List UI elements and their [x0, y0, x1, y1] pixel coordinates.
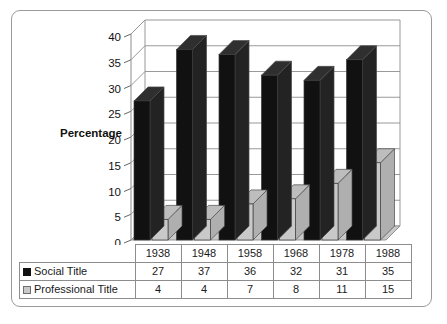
gray-swatch-icon — [23, 286, 31, 294]
table-value-cell: 35 — [365, 263, 411, 281]
bar-social-title-1938 — [134, 87, 164, 240]
legend-row-social-title: Social Title — [20, 263, 136, 281]
y-tick-label: 25 — [108, 108, 121, 120]
y-tick-label: 30 — [108, 83, 121, 95]
table-value-cell: 15 — [365, 281, 411, 299]
table-value-cell: 37 — [181, 263, 227, 281]
legend-row-professional-title: Professional Title — [20, 281, 136, 299]
legend-label: Social Title — [34, 265, 87, 277]
y-tick-label: 20 — [108, 134, 121, 146]
table-header-cell: 1988 — [365, 245, 411, 263]
table-value-cell: 4 — [135, 281, 181, 299]
table-value-cell: 4 — [181, 281, 227, 299]
table-value-cell: 36 — [227, 263, 273, 281]
y-tick-label: 35 — [108, 57, 121, 69]
table-value-cell: 31 — [319, 263, 365, 281]
table-row: Social Title273736323135 — [20, 263, 412, 281]
table-header-cell: 1958 — [227, 245, 273, 263]
chart-screenshot: Percentage 4035302520151050 193819481958… — [0, 0, 447, 324]
table-header-cell: 1968 — [273, 245, 319, 263]
table-value-cell: 7 — [227, 281, 273, 299]
y-tick-label: 40 — [108, 31, 121, 43]
table-value-cell: 32 — [273, 263, 319, 281]
legend-label: Professional Title — [34, 283, 118, 295]
table-header-cell: 1938 — [135, 245, 181, 263]
data-table: 193819481958196819781988Social Title2737… — [19, 244, 412, 299]
table-header-cell: 1948 — [181, 245, 227, 263]
y-tick-group: 4035302520151050 — [108, 31, 131, 249]
y-tick-label: 10 — [108, 186, 121, 198]
black-swatch-icon — [23, 268, 31, 276]
table-value-cell: 27 — [135, 263, 181, 281]
table-corner-cell — [20, 245, 136, 263]
table-value-cell: 11 — [319, 281, 365, 299]
table-row: Professional Title44781115 — [20, 281, 412, 299]
table-header-row: 193819481958196819781988 — [20, 245, 412, 263]
y-tick-label: 15 — [108, 160, 121, 172]
table-header-cell: 1978 — [319, 245, 365, 263]
y-tick-label: 5 — [115, 211, 121, 223]
table-value-cell: 8 — [273, 281, 319, 299]
